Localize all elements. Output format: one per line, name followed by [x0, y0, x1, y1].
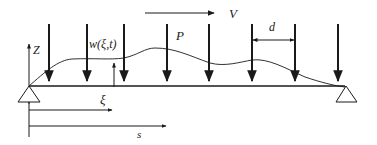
- s-label: s: [137, 128, 141, 140]
- diagram-canvas: V P d Z w(ξ,t): [0, 0, 377, 145]
- load-arrows: [49, 24, 338, 81]
- velocity-label: V: [229, 6, 239, 21]
- deflection-label: w(ξ,t): [89, 37, 116, 51]
- load-label: P: [175, 28, 184, 43]
- deflection-curve: [29, 48, 345, 87]
- xi-label: ξ: [100, 92, 106, 107]
- z-axis-label: Z: [33, 43, 40, 57]
- beam-diagram: V P d Z w(ξ,t): [0, 0, 377, 145]
- left-pin-support: [18, 86, 40, 102]
- spacing-label: d: [269, 20, 276, 34]
- right-roller-support: [336, 86, 357, 102]
